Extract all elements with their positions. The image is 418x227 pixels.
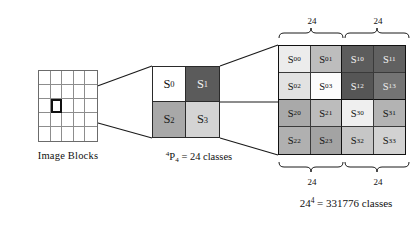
image-block-cell — [74, 127, 86, 141]
level2-cell-s12: S12 — [342, 73, 374, 100]
level2-cell-s11-sub: 11 — [389, 55, 396, 63]
image-block-cell — [39, 113, 51, 127]
image-block-cell — [51, 113, 63, 127]
brace-top-left-label: 24 — [281, 16, 343, 26]
level2-cell-s02-sub: 02 — [294, 82, 301, 90]
level2-block-4x4: S00S01S10S11S02S03S12S13S20S21S30S31S22S… — [278, 45, 406, 155]
level2-cell-s31: S31 — [374, 100, 406, 127]
image-block-cell — [39, 85, 51, 99]
image-block-cell — [62, 85, 74, 99]
level2-cell-s21-sub: 21 — [325, 109, 332, 117]
level1-cell-s1: S1 — [186, 67, 219, 102]
image-block-cell — [62, 113, 74, 127]
level2-cell-s11: S11 — [374, 46, 406, 73]
level2-cell-s01-sub: 01 — [325, 55, 332, 63]
image-block-cell — [62, 71, 74, 85]
brace-bottom-left-label: 24 — [281, 177, 343, 187]
level1-caption: 4P4 = 24 classes — [140, 150, 258, 164]
total-rest: = 331776 classes — [314, 197, 392, 209]
level2-cell-s03: S03 — [311, 73, 343, 100]
level1-caption-rest: = 24 classes — [179, 151, 232, 162]
image-block-cell — [74, 113, 86, 127]
image-block-cell — [85, 85, 97, 99]
level2-cell-s00-sub: 00 — [294, 55, 301, 63]
level2-total-caption: 244 = 331776 classes — [276, 196, 416, 209]
level2-cell-s20-sub: 20 — [294, 109, 301, 117]
image-block-selected — [51, 99, 63, 113]
level2-cell-s32-sub: 32 — [357, 137, 364, 145]
level2-cell-s13-sub: 13 — [389, 82, 396, 90]
image-blocks-caption: Image Blocks — [12, 150, 124, 161]
level1-cell-s2: S2 — [153, 102, 186, 137]
level2-cell-s23-sub: 23 — [325, 137, 332, 145]
level2-cell-s22: S22 — [279, 127, 311, 154]
level2-cell-s13: S13 — [374, 73, 406, 100]
level2-cell-s20: S20 — [279, 100, 311, 127]
level2-cell-s10-sub: 10 — [357, 55, 364, 63]
level2-cell-s21: S21 — [311, 100, 343, 127]
image-block-cell — [51, 127, 63, 141]
image-block-cell — [74, 71, 86, 85]
image-block-cell — [39, 71, 51, 85]
image-block-cell — [39, 127, 51, 141]
image-block-cell — [51, 85, 63, 99]
level2-cell-s01: S01 — [311, 46, 343, 73]
level2-cell-s23: S23 — [311, 127, 343, 154]
level2-cell-s31-sub: 31 — [389, 109, 396, 117]
level1-cell-s0-sub: 0 — [170, 79, 174, 89]
level1-cell-s3-base: S — [197, 112, 204, 127]
brace-top-right-label: 24 — [347, 16, 409, 26]
level2-cell-s30-sub: 30 — [357, 109, 364, 117]
level1-block-2x2: S0S1S2S3 — [152, 66, 220, 138]
level2-cell-s30: S30 — [342, 100, 374, 127]
level1-cell-s3-sub: 3 — [204, 115, 208, 125]
level2-cell-s22-sub: 22 — [294, 137, 301, 145]
level2-cell-s12-sub: 12 — [357, 82, 364, 90]
image-blocks-grid — [38, 70, 98, 142]
level2-cell-s00: S00 — [279, 46, 311, 73]
image-block-cell — [39, 99, 51, 113]
image-block-cell — [74, 85, 86, 99]
brace-bottom-right-label: 24 — [347, 177, 409, 187]
image-block-cell — [85, 127, 97, 141]
image-block-cell — [62, 127, 74, 141]
diagram-canvas: Image Blocks S0S1S2S3 4P4 = 24 classes S… — [0, 0, 418, 227]
level1-cell-s1-sub: 1 — [204, 79, 208, 89]
level1-cell-s1-base: S — [197, 77, 204, 92]
level2-cell-s32: S32 — [342, 127, 374, 154]
level1-cell-s0: S0 — [153, 67, 186, 102]
total-base: 24 — [300, 197, 311, 209]
level2-cell-s33-sub: 33 — [389, 137, 396, 145]
image-block-cell — [51, 71, 63, 85]
level1-cell-s0-base: S — [163, 77, 170, 92]
level1-cell-s2-base: S — [163, 112, 170, 127]
image-block-cell — [62, 99, 74, 113]
image-block-cell — [74, 99, 86, 113]
level2-cell-s02: S02 — [279, 73, 311, 100]
level2-cell-s10: S10 — [342, 46, 374, 73]
image-block-cell — [85, 71, 97, 85]
level2-cell-s03-sub: 03 — [325, 82, 332, 90]
level2-cell-s33: S33 — [374, 127, 406, 154]
level1-cell-s2-sub: 2 — [170, 115, 174, 125]
image-block-cell — [85, 99, 97, 113]
image-block-cell — [85, 113, 97, 127]
level1-cell-s3: S3 — [186, 102, 219, 137]
